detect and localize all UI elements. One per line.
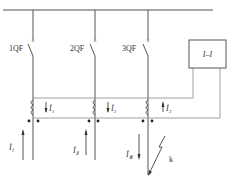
differential-relay: I–I [189,40,226,68]
breaker-cross-icon: × [146,37,150,45]
breaker-label-3qf: 3QF [122,44,137,53]
feeder-2: × 2QF İ2 İⅡ [70,10,117,160]
line-current-i2: İⅡ [72,146,79,156]
fault-label-k: k [169,155,173,164]
breaker-label-2qf: 2QF [70,44,85,53]
busbar-protection-diagram: × 1QF İ1 İⅠ × 2QF İ2 İⅡ × [0,0,233,189]
secondary-current-i2: İ2 [110,104,117,114]
polarity-dot [88,120,91,123]
breaker-3qf-contact [143,44,148,56]
fault-indicator: k [148,136,173,176]
feeder-1: × 1QF İ1 İⅠ [8,10,54,160]
polarity-dot [97,120,100,123]
feeder-3: × 3QF İ3 İⅢ [122,10,172,175]
breaker-label-1qf: 1QF [9,44,24,53]
breaker-2qf-contact [90,44,95,56]
secondary-current-i1: İ1 [48,104,54,114]
line-current-i1: İⅠ [8,143,14,153]
relay-label: I–I [202,50,213,59]
polarity-dot [142,120,145,123]
breaker-1qf-contact [28,44,33,56]
breaker-cross-icon: × [31,37,35,45]
ct-secondary-wiring [33,68,220,118]
polarity-dot [37,120,40,123]
line-current-i3: İⅢ [125,150,133,160]
polarity-dot [28,120,31,123]
lightning-bolt-icon [149,136,165,174]
secondary-current-i3: İ3 [165,104,172,114]
polarity-dot [151,120,154,123]
breaker-cross-icon: × [93,37,97,45]
